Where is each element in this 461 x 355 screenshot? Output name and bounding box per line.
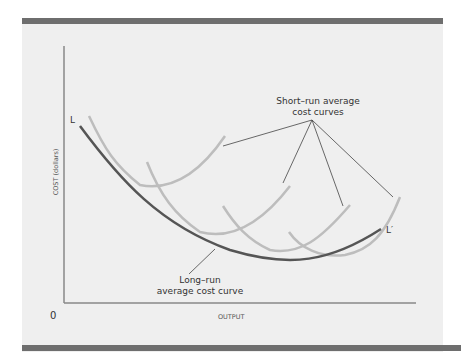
short-run-curve-4 [289,197,400,256]
x-axis-label: OUTPUT [218,312,245,323]
cost-curves-diagram [0,0,461,355]
y-axis-label: COST (dollars) [52,142,60,202]
long-run-end-label: L′ [386,225,393,236]
long-run-curve [80,126,381,260]
short-run-label: Short–run average cost curves [268,96,368,118]
long-run-start-label: L [70,115,75,126]
origin-label: 0 [50,310,56,321]
short-run-curve-1 [89,116,225,186]
short-run-curve-2 [147,162,290,234]
long-run-label: Long–run average cost curve [150,275,250,297]
